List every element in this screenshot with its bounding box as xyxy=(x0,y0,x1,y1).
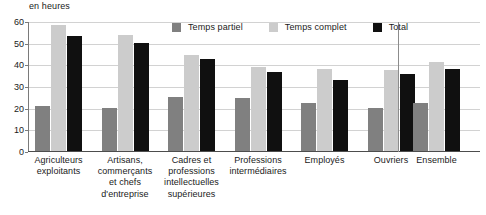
bar-group xyxy=(301,22,348,151)
category-label-line: et chefs xyxy=(89,177,161,188)
legend-swatch-icon xyxy=(373,23,382,32)
y-axis-tick-mark xyxy=(25,44,28,45)
category-label-line: Agriculteurs xyxy=(23,155,95,166)
legend-label: Total xyxy=(389,22,409,32)
category-label-line: d'entreprise xyxy=(89,189,161,200)
category-label-line: exploitants xyxy=(23,166,95,177)
bar xyxy=(168,97,183,151)
x-axis-category-label: Employés xyxy=(289,155,361,166)
y-axis-tick-mark xyxy=(25,65,28,66)
y-axis-tick-label: 40 xyxy=(14,60,24,70)
legend-item: Temps complet xyxy=(269,22,347,32)
bar xyxy=(67,36,82,151)
bar-group xyxy=(102,22,149,151)
category-label-line: intermédiaires xyxy=(222,166,294,177)
x-axis-line xyxy=(28,151,480,152)
x-axis-category-label: Agriculteursexploitants xyxy=(23,155,95,177)
bar xyxy=(384,70,399,151)
bar-chart-figure: en heures Temps partielTemps completTota… xyxy=(0,0,486,215)
x-axis-category-labels: AgriculteursexploitantsArtisans,commerça… xyxy=(29,155,481,213)
bar xyxy=(429,62,444,151)
category-label-line: commerçants xyxy=(89,166,161,177)
plot-area: 0102030405060 xyxy=(28,22,480,152)
bar xyxy=(134,43,149,151)
bar xyxy=(118,35,133,151)
category-label-line: Employés xyxy=(289,155,361,166)
bar-group xyxy=(368,22,415,151)
x-axis-category-label: Cadres etprofessionsintellectuellessupér… xyxy=(156,155,228,200)
bar xyxy=(200,59,215,151)
bar-group xyxy=(35,22,82,151)
bar xyxy=(51,25,66,151)
y-axis-tick-label: 30 xyxy=(14,82,24,92)
y-axis-tick-label: 60 xyxy=(14,17,24,27)
y-axis-tick-label: 20 xyxy=(14,104,24,114)
legend-swatch-icon xyxy=(269,23,278,32)
bar-group xyxy=(168,22,215,151)
bar xyxy=(413,103,428,151)
bar xyxy=(368,108,383,151)
x-axis-category-label: Artisans,commerçantset chefsd'entreprise xyxy=(89,155,161,200)
y-axis-tick-label: 50 xyxy=(14,39,24,49)
bar xyxy=(251,67,266,152)
ensemble-separator-line xyxy=(398,22,399,152)
y-axis-tick-label: 10 xyxy=(14,125,24,135)
y-axis-tick-mark xyxy=(25,87,28,88)
y-axis-tick-mark xyxy=(25,22,28,23)
bar xyxy=(445,69,460,151)
x-axis-category-label: Ensemble xyxy=(397,155,477,166)
legend-label: Temps partiel xyxy=(188,22,243,32)
category-label-line: supérieures xyxy=(156,189,228,200)
y-axis-unit-label: en heures xyxy=(29,1,70,11)
category-label-line: Professions xyxy=(222,155,294,166)
bar xyxy=(235,98,250,151)
legend-item: Total xyxy=(373,22,409,32)
chart-legend: Temps partielTemps completTotal xyxy=(172,22,408,32)
legend-item: Temps partiel xyxy=(172,22,243,32)
bars-layer xyxy=(29,22,480,151)
y-axis-tick-mark xyxy=(25,130,28,131)
bar xyxy=(102,108,117,151)
legend-swatch-icon xyxy=(172,23,181,32)
bar-group xyxy=(413,22,460,151)
category-label-line: intellectuelles xyxy=(156,177,228,188)
category-label-line: Artisans, xyxy=(89,155,161,166)
bar xyxy=(301,103,316,151)
bar xyxy=(267,72,282,151)
y-axis-tick-mark xyxy=(25,109,28,110)
category-label-line: Cadres et xyxy=(156,155,228,166)
x-axis-category-label: Professionsintermédiaires xyxy=(222,155,294,177)
bar xyxy=(184,55,199,151)
category-label-line: professions xyxy=(156,166,228,177)
category-label-line: Ensemble xyxy=(397,155,477,166)
legend-label: Temps complet xyxy=(285,22,347,32)
bar xyxy=(317,69,332,151)
bar xyxy=(35,106,50,152)
bar xyxy=(333,80,348,152)
y-axis-tick-mark xyxy=(25,152,28,153)
bar-group xyxy=(235,22,282,151)
